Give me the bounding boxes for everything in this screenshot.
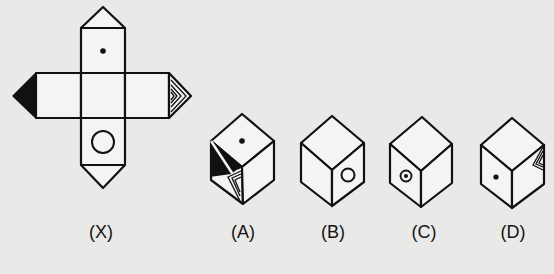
cube-option-a[interactable]: [211, 114, 274, 204]
option-d-label[interactable]: (D): [501, 220, 526, 244]
option-b-label[interactable]: (B): [321, 220, 345, 244]
dot-icon: [239, 138, 245, 144]
net-right-face: [125, 73, 169, 118]
cube-option-c[interactable]: [390, 117, 452, 207]
net-bottom-face: [81, 118, 125, 165]
option-a-label[interactable]: (A): [231, 220, 255, 244]
dot-icon: [493, 174, 498, 179]
cube-option-d[interactable]: [481, 118, 544, 208]
cube-net: [13, 7, 191, 188]
puzzle-figure: (X) (A) (B) (C) (D): [0, 0, 554, 274]
option-c-label[interactable]: (C): [412, 220, 437, 244]
net-center-face: [81, 73, 125, 118]
dot-icon: [100, 48, 106, 54]
net-top-triangle: [81, 7, 125, 28]
dot-icon: [404, 174, 408, 178]
net-left-black-triangle: [13, 73, 36, 118]
cube-option-b[interactable]: [301, 116, 364, 206]
net-bottom-triangle: [81, 165, 125, 188]
net-left-face: [36, 73, 81, 118]
net-label: (X): [89, 220, 113, 244]
